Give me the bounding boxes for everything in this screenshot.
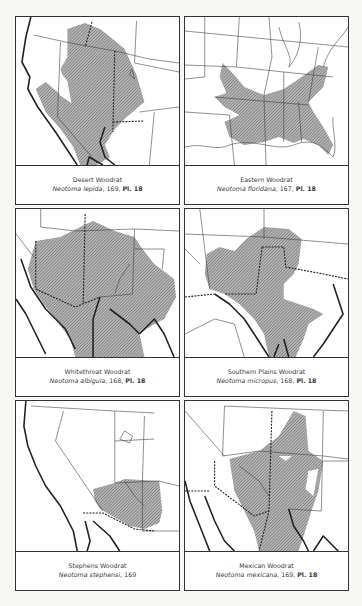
common-name: Whitethroat Woodrat bbox=[16, 367, 179, 376]
range-map bbox=[16, 401, 179, 552]
scientific-name: Neotoma floridana bbox=[217, 185, 276, 192]
map-caption: Eastern Woodrat Neotoma floridana, 167, … bbox=[185, 164, 348, 204]
map-caption: Mexican Woodrat Neotoma mexicana, 169, P… bbox=[185, 550, 348, 590]
map-caption: Stephens Woodrat Neotoma stephensi, 169 bbox=[16, 550, 179, 590]
range-map bbox=[185, 209, 348, 358]
plate-reference: Pl. 18 bbox=[122, 185, 142, 192]
scientific-name-line: Neotoma micropus, 168, Pl. 18 bbox=[185, 376, 348, 385]
range-area bbox=[93, 479, 162, 529]
scientific-name-line: Neotoma lepida, 169, Pl. 18 bbox=[16, 184, 179, 193]
range-map bbox=[185, 17, 348, 166]
range-area bbox=[36, 23, 145, 165]
range-map-panel-stephens-woodrat: Stephens Woodrat Neotoma stephensi, 169 bbox=[15, 400, 180, 591]
scientific-name-line: Neotoma stephensi, 169 bbox=[16, 570, 179, 579]
scientific-name-line: Neotoma mexicana, 169, Pl. 18 bbox=[185, 570, 348, 579]
range-area bbox=[215, 63, 334, 155]
scientific-name: Neotoma albigula bbox=[50, 377, 106, 384]
map-caption: Southern Plains Woodrat Neotoma micropus… bbox=[185, 356, 348, 396]
scientific-name: Neotoma mexicana bbox=[216, 571, 277, 578]
page-number: 169 bbox=[124, 571, 136, 578]
page-number: 169 bbox=[106, 185, 118, 192]
common-name: Desert Woodrat bbox=[16, 175, 179, 184]
page-number: 168 bbox=[280, 377, 292, 384]
map-mexican-woodrat bbox=[185, 401, 348, 551]
range-map bbox=[185, 401, 348, 552]
map-desert-woodrat bbox=[16, 17, 179, 165]
plate-reference: Pl. 18 bbox=[297, 571, 317, 578]
range-map bbox=[16, 17, 179, 166]
common-name: Eastern Woodrat bbox=[185, 175, 348, 184]
plate-reference: Pl. 18 bbox=[296, 377, 316, 384]
scientific-name-line: Neotoma albigula, 168, Pl. 18 bbox=[16, 376, 179, 385]
scientific-name: Neotoma lepida bbox=[52, 185, 102, 192]
range-map-panel-whitethroat-woodrat: Whitethroat Woodrat Neotoma albigula, 16… bbox=[15, 208, 180, 397]
map-whitethroat-woodrat bbox=[16, 209, 179, 357]
map-stephens-woodrat bbox=[16, 401, 179, 551]
plate-reference: Pl. 18 bbox=[125, 377, 145, 384]
common-name: Stephens Woodrat bbox=[16, 561, 179, 570]
range-map-panel-southern-plains-woodrat: Southern Plains Woodrat Neotoma micropus… bbox=[184, 208, 349, 397]
scientific-name: Neotoma stephensi bbox=[59, 571, 120, 578]
page-number: 167 bbox=[280, 185, 292, 192]
map-caption: Whitethroat Woodrat Neotoma albigula, 16… bbox=[16, 356, 179, 396]
range-map bbox=[16, 209, 179, 358]
common-name: Mexican Woodrat bbox=[185, 561, 348, 570]
scientific-name: Neotoma micropus bbox=[217, 377, 277, 384]
page-number: 169 bbox=[281, 571, 293, 578]
range-map-panel-mexican-woodrat: Mexican Woodrat Neotoma mexicana, 169, P… bbox=[184, 400, 349, 591]
common-name: Southern Plains Woodrat bbox=[185, 367, 348, 376]
range-map-panel-desert-woodrat: Desert Woodrat Neotoma lepida, 169, Pl. … bbox=[15, 16, 180, 205]
map-caption: Desert Woodrat Neotoma lepida, 169, Pl. … bbox=[16, 164, 179, 204]
range-area bbox=[28, 221, 176, 357]
map-southern-plains-woodrat bbox=[185, 209, 348, 357]
map-eastern-woodrat bbox=[185, 17, 348, 165]
page-number: 168 bbox=[109, 377, 121, 384]
range-map-panel-eastern-woodrat: Eastern Woodrat Neotoma floridana, 167, … bbox=[184, 16, 349, 205]
scientific-name-line: Neotoma floridana, 167, Pl. 18 bbox=[185, 184, 348, 193]
plate-reference: Pl. 18 bbox=[296, 185, 316, 192]
